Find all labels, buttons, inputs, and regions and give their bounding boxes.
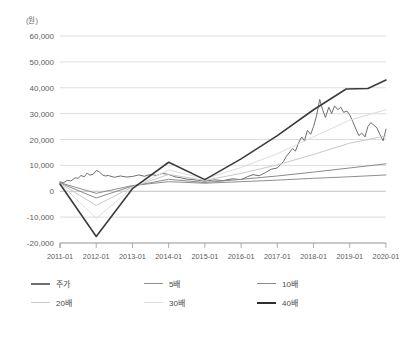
legend-label: 주가 (56, 278, 70, 289)
legend-item-30x[interactable]: 30배 (144, 297, 257, 308)
series-lines (60, 80, 386, 237)
series-line (60, 110, 386, 219)
series-line (60, 80, 386, 237)
series-line (60, 175, 386, 193)
legend-row-2: 20배 30배 40배 (0, 293, 401, 312)
legend-label: 20배 (56, 297, 72, 308)
legend-item-10x[interactable]: 10배 (257, 278, 370, 289)
legend-swatch-icon (31, 283, 50, 285)
series-line (60, 136, 386, 206)
legend-item-40x[interactable]: 40배 (257, 297, 370, 308)
legend-swatch-icon (257, 302, 276, 304)
legend-row-1: 주가 5배 10배 (0, 274, 401, 293)
gridlines (60, 36, 386, 243)
legend-label: 40배 (282, 297, 298, 308)
axis-lines (60, 243, 386, 248)
series-line (60, 99, 386, 182)
legend-item-5x[interactable]: 5배 (144, 278, 257, 289)
legend-swatch-icon (257, 283, 276, 284)
legend-label: 30배 (169, 297, 185, 308)
legend-item-20x[interactable]: 20배 (31, 297, 144, 308)
legend-swatch-icon (144, 283, 163, 284)
chart-container: (원) 60,00050,00040,00030,00020,00010,000… (0, 0, 401, 337)
legend-item-juga[interactable]: 주가 (31, 278, 144, 289)
legend-label: 5배 (169, 278, 180, 289)
legend-label: 10배 (282, 278, 298, 289)
legend-swatch-icon (144, 302, 163, 303)
legend-swatch-icon (31, 302, 50, 303)
chart-legend: 주가 5배 10배 20배 30배 40배 (0, 274, 401, 312)
